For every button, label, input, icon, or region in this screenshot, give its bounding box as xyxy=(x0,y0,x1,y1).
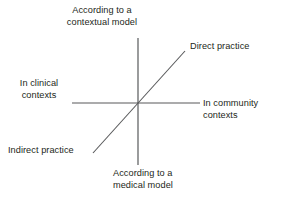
axis-label-left: In clinical contexts xyxy=(6,78,72,101)
quadrant-diagram: According to a contextual model Accordin… xyxy=(0,0,290,203)
axis-label-indirect-practice: Indirect practice xyxy=(8,145,96,157)
axis-label-top: According to a contextual model xyxy=(52,5,152,28)
diagonal-axis-line xyxy=(93,51,185,153)
axis-label-direct-practice: Direct practice xyxy=(190,41,286,53)
axis-label-bottom: According to a medical model xyxy=(113,168,223,191)
axis-label-right: In community contexts xyxy=(203,98,289,121)
